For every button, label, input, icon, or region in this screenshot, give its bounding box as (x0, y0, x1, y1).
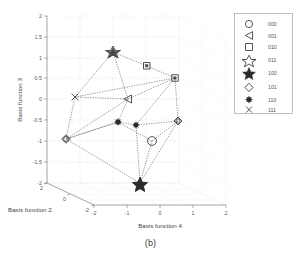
legend-background (235, 14, 293, 114)
x-tick-label: -2 (92, 210, 97, 216)
edge (113, 52, 147, 66)
y-axis-ticks: 2 1.5 1 0.5 0 -0.5 -1 -1.5 -2 (33, 13, 47, 186)
edge (66, 99, 128, 139)
marker-111-x-cross (72, 94, 79, 101)
x-tick-label: 1 (192, 210, 195, 216)
edge (128, 78, 175, 99)
y-tick-label: 0 (39, 96, 42, 102)
constellation-edges (66, 52, 178, 183)
y-tick-label: 2 (39, 13, 42, 19)
y-tick-label: -0.5 (33, 117, 42, 123)
y-axis-title: Basis function 3 (16, 78, 23, 122)
x-axis-ticks: -2 -1 0 1 2 (92, 205, 228, 216)
legend-label: 001 (268, 33, 277, 39)
y-tick-label: 0.5 (35, 75, 43, 81)
edge (66, 97, 75, 139)
figure-panel: 2 1.5 1 0.5 0 -0.5 -1 -1.5 -2 -2 -1 0 1 … (0, 0, 301, 267)
legend[interactable]: 000 001 010 011 100 (235, 14, 293, 114)
x-tick-label: 2 (225, 210, 228, 216)
plot-axes (47, 16, 226, 205)
edge (140, 121, 178, 183)
edge (66, 139, 140, 183)
edge (175, 78, 178, 121)
legend-label: 100 (268, 70, 277, 76)
z-tick-label: 0 (63, 196, 66, 202)
edge (136, 125, 140, 183)
x-axis-title: Basis function 4 (138, 222, 182, 229)
y-tick-label: -1.5 (33, 159, 42, 165)
legend-label: 011 (268, 57, 276, 63)
3d-scatter-plot: 2 1.5 1 0.5 0 -0.5 -1 -1.5 -2 -2 -1 0 1 … (0, 0, 301, 267)
marker-110-asterisk-filled (133, 122, 140, 129)
z-axis-title: Basis function 2 (8, 206, 52, 213)
legend-label: 010 (268, 44, 277, 50)
marker-010-square (144, 63, 150, 69)
edge (75, 97, 128, 99)
edge (136, 121, 178, 125)
plot-grid (47, 16, 226, 205)
legend-label: 101 (268, 84, 277, 90)
legend-label: 000 (268, 21, 277, 27)
edge (152, 121, 178, 141)
z-tick-label: 2 (40, 185, 43, 191)
x-tick-label: 0 (159, 210, 162, 216)
y-tick-label: 1.5 (35, 34, 43, 40)
figure-caption: (b) (0, 238, 301, 248)
y-tick-label: -1 (37, 138, 42, 144)
legend-label: 111 (268, 107, 276, 113)
x-tick-label: -1 (125, 210, 130, 216)
data-markers (62, 46, 182, 191)
edge (147, 66, 175, 78)
marker-100-pentagram-filled (133, 177, 148, 191)
z-tick-label: -2 (84, 207, 89, 213)
edge (136, 78, 175, 125)
legend-label: 110 (268, 97, 276, 103)
edge (113, 52, 128, 99)
y-tick-label: 1 (39, 55, 42, 61)
edge (75, 78, 175, 97)
marker-110-asterisk-filled (115, 119, 122, 126)
